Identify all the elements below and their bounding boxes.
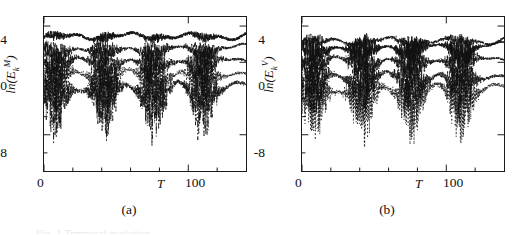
panel-b-xtick-100: 100 (443, 176, 463, 190)
panel-b-ylabel-subscript: k (269, 66, 279, 70)
panel-b: 4 0 -8 ln(EkV) 0 100 T (b) (258, 0, 516, 235)
panel-a: 4 0 -8 ln(EkM) 0 100 T (a) Fig. 1 Tempor… (0, 0, 258, 235)
panel-b-ytick-minus8: -8 (225, 146, 265, 160)
caption-remnant: Fig. 1 Temporal evolution (36, 228, 246, 234)
panel-a-y-axis-label: ln(EkM) (3, 30, 20, 120)
panel-b-plot-frame (301, 16, 505, 172)
panel-b-ytick-0: 0 (225, 79, 265, 93)
panel-a-ylabel-suffix: ) (3, 55, 18, 59)
panel-b-y-axis-label: ln(EkV) (261, 30, 278, 120)
series-line-solid (44, 31, 246, 43)
panel-a-plot-area (44, 17, 246, 171)
panel-a-ylabel-superscript: M (2, 60, 12, 68)
panel-b-ylabel-suffix: ) (261, 56, 276, 60)
panel-a-plot-frame (43, 16, 247, 172)
panel-b-ylabel-superscript: V (260, 61, 270, 67)
panel-b-x-axis-label: T (415, 177, 422, 190)
panel-a-xtick-0: 0 (37, 176, 44, 190)
panel-b-ylabel-prefix: ln(E (261, 70, 276, 92)
panel-a-x-axis-label: T (157, 177, 164, 190)
panel-a-tag: (a) (0, 203, 258, 217)
panel-b-tag: (b) (258, 203, 516, 217)
panel-b-ytick-4: 4 (225, 33, 265, 47)
panel-a-ylabel-prefix: ln(E (3, 71, 18, 93)
panel-b-plot-area (302, 17, 504, 171)
panel-a-ytick-minus8: -8 (0, 146, 7, 160)
panel-a-xtick-100: 100 (185, 176, 205, 190)
panel-a-ylabel-subscript: k (11, 67, 21, 71)
figure-two-panel-timeseries: 4 0 -8 ln(EkM) 0 100 T (a) Fig. 1 Tempor… (0, 0, 516, 235)
panel-b-xtick-0: 0 (295, 176, 302, 190)
